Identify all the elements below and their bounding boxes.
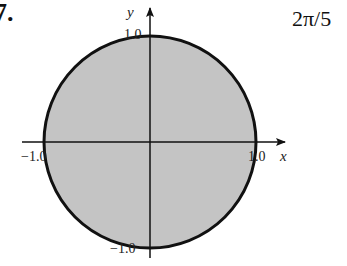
y-axis-label: y: [125, 4, 134, 20]
tick-x-neg: −1.0: [21, 149, 46, 164]
x-axis-label: x: [279, 148, 287, 164]
tick-x-pos: 1.0: [248, 149, 266, 164]
circle-diagram: y x 1.0 −1.0 1.0 −1.0: [0, 0, 347, 266]
tick-y-pos: 1.0: [124, 27, 142, 42]
tick-y-neg: −1.0: [110, 241, 135, 256]
